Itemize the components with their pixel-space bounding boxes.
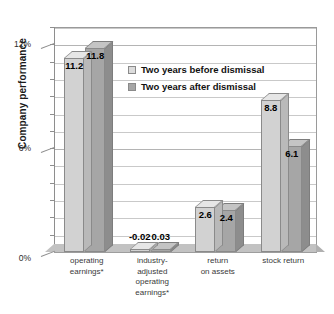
bar-value-label: 6.1	[275, 148, 309, 159]
y-axis-tick	[50, 235, 54, 236]
bar-front-face	[261, 100, 281, 252]
y-axis-tick	[50, 165, 54, 166]
bar-side-face	[84, 51, 92, 252]
bar-value-label: 8.8	[254, 102, 288, 113]
bar-before	[64, 58, 84, 252]
legend: Two years before dismissal Two years aft…	[128, 62, 264, 96]
legend-label-after: Two years after dismissal	[141, 81, 256, 92]
legend-label-before: Two years before dismissal	[141, 64, 264, 75]
gridline	[54, 28, 316, 29]
y-axis-tick	[50, 200, 54, 201]
y-axis-tick	[50, 217, 54, 218]
y-axis-tick	[50, 62, 54, 63]
chart-floor-right-wedge	[316, 244, 325, 252]
bar-after	[151, 249, 171, 252]
y-axis-tick	[50, 114, 54, 115]
bar-before	[261, 100, 281, 252]
bar-front-face	[151, 249, 171, 252]
category-label: operatingearnings*	[54, 256, 120, 277]
bar-side-face	[236, 203, 244, 251]
category-label: stock return	[251, 256, 317, 267]
y-axis-label: 12%	[1, 39, 31, 49]
y-axis-tick	[50, 131, 54, 132]
category-label-line: operating	[54, 256, 120, 267]
bar-front-face	[64, 58, 84, 252]
legend-swatch-after-icon	[128, 83, 136, 91]
category-label-line: operating	[120, 277, 186, 288]
legend-swatch-before-icon	[128, 66, 136, 74]
bar-side-face	[215, 200, 223, 252]
legend-item-after: Two years after dismissal	[128, 79, 264, 94]
chart-container: Company performance Two years before dis…	[0, 0, 334, 314]
category-label-line: stock return	[251, 256, 317, 267]
y-axis-label: 0%	[1, 253, 31, 263]
category-label-line: on assets	[185, 267, 251, 278]
bar-value-label: 0.03	[144, 231, 178, 242]
bar-value-label: 2.4	[209, 212, 243, 223]
category-label-line: return	[185, 256, 251, 267]
y-axis-line	[54, 27, 55, 252]
category-label-line: industry-	[120, 256, 186, 267]
y-axis-tick	[50, 79, 54, 80]
category-label: returnon assets	[185, 256, 251, 277]
bar-before	[130, 249, 150, 252]
category-label-line: earnings*	[54, 267, 120, 278]
bar-side-face	[281, 93, 289, 252]
bar-value-label: 11.2	[57, 60, 91, 71]
bar-front-face	[130, 249, 150, 252]
legend-item-before: Two years before dismissal	[128, 62, 264, 77]
y-axis-tick	[50, 183, 54, 184]
category-label-line: adjusted	[120, 267, 186, 278]
y-axis-tick	[50, 27, 54, 28]
bar-side-face	[105, 41, 113, 252]
y-axis-label: 6%	[1, 143, 31, 153]
bar-value-label: 11.8	[78, 50, 112, 61]
category-label-line: earnings*	[120, 288, 186, 299]
y-axis-tick	[50, 96, 54, 97]
category-label: industry-adjustedoperatingearnings*	[120, 256, 186, 298]
